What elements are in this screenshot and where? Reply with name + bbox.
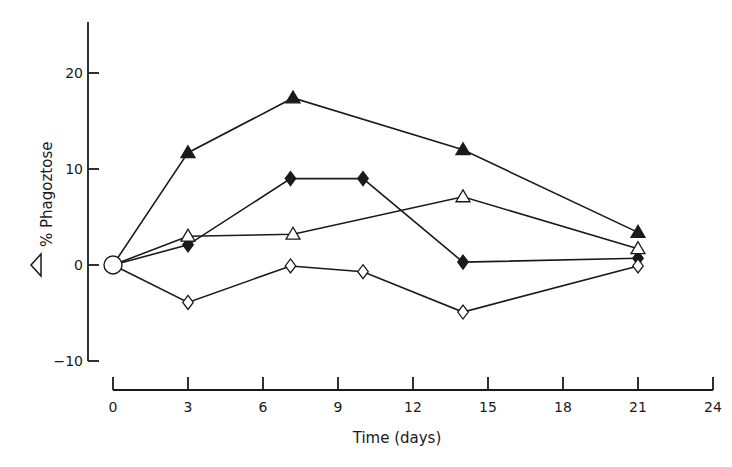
y-tick-label: −10	[53, 353, 83, 369]
diamond-marker	[285, 172, 296, 186]
diamond-marker	[458, 255, 469, 269]
y-tick-label: 10	[65, 161, 83, 177]
x-tick-label: 9	[334, 399, 343, 415]
diamond-marker	[358, 265, 369, 279]
x-tick-label: 3	[184, 399, 193, 415]
triangle-marker	[286, 91, 300, 103]
line-chart: −1001020 03691215182124 Time (days) % Ph…	[0, 0, 732, 467]
diamond-marker	[285, 259, 296, 273]
x-tick-label: 15	[479, 399, 497, 415]
x-axis: 03691215182124	[109, 377, 722, 415]
y-tick-label: 0	[74, 257, 83, 273]
delta-icon	[31, 254, 41, 276]
x-tick-label: 21	[629, 399, 647, 415]
x-tick-label: 6	[259, 399, 268, 415]
x-tick-label: 0	[109, 399, 118, 415]
triangle-marker	[181, 229, 195, 241]
x-tick-label: 12	[404, 399, 422, 415]
diamond-marker	[183, 295, 194, 309]
triangle-marker	[456, 190, 470, 202]
series-open-triangle	[113, 190, 645, 265]
x-tick-label: 18	[554, 399, 572, 415]
y-tick-label: 20	[65, 65, 83, 81]
x-tick-label: 24	[704, 399, 722, 415]
diamond-marker	[458, 305, 469, 319]
series-open-diamond	[113, 259, 643, 319]
y-axis-title-text: % Phagoztose	[38, 142, 56, 247]
x-axis-title: Time (days)	[352, 429, 442, 447]
origin-circle-marker	[104, 256, 122, 274]
y-axis: −1001020	[53, 22, 99, 369]
y-axis-title: % Phagoztose	[38, 142, 56, 247]
triangle-marker	[181, 146, 195, 158]
series-filled-diamond	[113, 172, 643, 270]
series-group	[104, 91, 645, 319]
triangle-marker	[631, 225, 645, 237]
diamond-marker	[358, 172, 369, 186]
